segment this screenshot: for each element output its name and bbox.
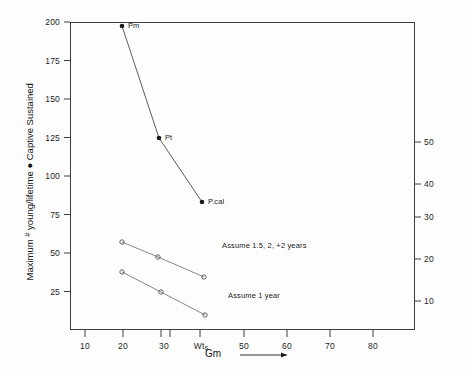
series-captive-sustained (120, 24, 205, 205)
y-left-title-prefix: Maximum (24, 237, 35, 281)
x-axis-title: Gm (205, 348, 221, 359)
plot-svg-layer (0, 0, 470, 376)
annotation-assume-long: Assume 1.5, 2, +2 years (222, 241, 307, 250)
bottom-axis-ticks (85, 330, 373, 337)
point-pcal (200, 200, 205, 205)
gm-arrow-icon (240, 352, 287, 357)
point-label-pcal: P.cal (208, 197, 224, 206)
chart-figure: 200 175 150 125 100 75 50 25 50 40 30 20… (0, 0, 470, 376)
y-right-tick-label-30: 30 (424, 212, 434, 222)
point-label-pt: Pt (165, 133, 172, 142)
y-right-tick-label-20: 20 (424, 254, 434, 264)
x-tick-label-80: 80 (368, 341, 378, 351)
right-axis-ticks (415, 142, 421, 301)
y-left-title-hash: # (23, 233, 32, 237)
y-left-tick-label-200: 200 (18, 17, 60, 27)
point-pt (157, 136, 162, 141)
annotation-assume-short: Assume 1 year (228, 291, 280, 300)
x-tick-label-60: 60 (282, 341, 292, 351)
x-tick-label-50: 50 (239, 341, 249, 351)
left-axis-ticks (64, 22, 70, 292)
y-right-tick-label-40: 40 (424, 179, 434, 189)
y-right-tick-label-10: 10 (424, 296, 434, 306)
series-assume-short-line (122, 272, 205, 315)
x-tick-label-20: 20 (118, 341, 128, 351)
y-left-title-suffix: young/lifetime ● Captive Sustained (24, 83, 35, 232)
wts-main: Wt (194, 341, 205, 351)
point-label-pm: Pm (128, 21, 139, 30)
x-tick-label-70: 70 (325, 341, 335, 351)
series-assume-short (120, 270, 207, 317)
y-right-tick-label-50: 50 (424, 137, 434, 147)
x-tick-label-10: 10 (80, 341, 90, 351)
x-tick-label-30: 30 (159, 341, 169, 351)
y-axis-left-title: Maximum # young/lifetime ● Captive Susta… (23, 57, 35, 307)
series-assume-long-line (122, 242, 204, 277)
series-assume-long (120, 240, 206, 279)
point-pm (120, 24, 125, 29)
series-captive-line (122, 26, 202, 202)
